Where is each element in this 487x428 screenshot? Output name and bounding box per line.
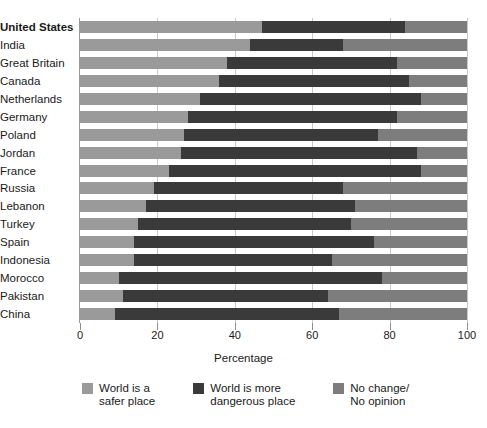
bar-segment-safer <box>80 272 119 284</box>
bar-row <box>80 236 467 248</box>
x-axis-title: Percentage <box>0 352 487 364</box>
category-label: Lebanon <box>0 200 76 212</box>
legend-item: World is a safer place <box>82 382 155 408</box>
legend-item: No change/ No opinion <box>333 382 409 408</box>
bar-row <box>80 200 467 212</box>
category-label: India <box>0 39 76 51</box>
bar-segment-nochange <box>382 272 467 284</box>
bar-segment-dangerous <box>219 75 409 87</box>
legend-label: World is a safer place <box>99 382 155 408</box>
bar-row <box>80 111 467 123</box>
bar-segment-nochange <box>421 93 467 105</box>
bar-segment-safer <box>80 182 154 194</box>
x-tick-label: 100 <box>458 329 476 341</box>
x-tick-label: 60 <box>306 329 318 341</box>
category-label: Russia <box>0 182 76 194</box>
bar-row <box>80 129 467 141</box>
bar-segment-nochange <box>328 290 467 302</box>
bar-segment-nochange <box>378 129 467 141</box>
bar-segment-nochange <box>397 111 467 123</box>
bar-segment-safer <box>80 21 262 33</box>
category-label: China <box>0 308 76 320</box>
category-label: Spain <box>0 236 76 248</box>
bar-segment-dangerous <box>146 200 355 212</box>
bar-segment-dangerous <box>227 57 397 69</box>
legend-swatch-nochange <box>333 383 344 394</box>
category-label: Netherlands <box>0 93 76 105</box>
bar-row <box>80 147 467 159</box>
bar-row <box>80 290 467 302</box>
bar-segment-dangerous <box>123 290 328 302</box>
bar-segment-nochange <box>351 218 467 230</box>
bar-segment-nochange <box>355 200 467 212</box>
bar-segment-nochange <box>332 254 467 266</box>
legend-label: No change/ No opinion <box>350 382 409 408</box>
bar-row <box>80 218 467 230</box>
category-label: Germany <box>0 111 76 123</box>
bar-segment-safer <box>80 236 134 248</box>
category-label: Morocco <box>0 272 76 284</box>
legend-label: World is more dangerous place <box>210 382 295 408</box>
category-label: Poland <box>0 129 76 141</box>
bar-row <box>80 272 467 284</box>
bar-segment-safer <box>80 93 200 105</box>
category-label: Turkey <box>0 218 76 230</box>
bar-row <box>80 165 467 177</box>
bar-segment-dangerous <box>184 129 378 141</box>
bar-segment-nochange <box>421 165 467 177</box>
bar-segment-nochange <box>417 147 467 159</box>
bar-segment-dangerous <box>181 147 417 159</box>
category-label: Jordan <box>0 147 76 159</box>
bar-segment-safer <box>80 57 227 69</box>
category-label: Canada <box>0 75 76 87</box>
legend-swatch-safer <box>82 383 93 394</box>
bar-segment-safer <box>80 75 219 87</box>
bar-segment-nochange <box>343 39 467 51</box>
bar-row <box>80 182 467 194</box>
bar-segment-safer <box>80 129 184 141</box>
bar-segment-dangerous <box>250 39 343 51</box>
category-label: Indonesia <box>0 254 76 266</box>
bar-segment-dangerous <box>115 308 339 320</box>
bar-segment-dangerous <box>119 272 382 284</box>
bar-segment-safer <box>80 111 188 123</box>
bar-segment-safer <box>80 254 134 266</box>
bar-row <box>80 308 467 320</box>
bar-row <box>80 39 467 51</box>
bar-row <box>80 21 467 33</box>
category-label-column: United StatesIndiaGreat BritainCanadaNet… <box>0 18 76 323</box>
bar-segment-nochange <box>397 57 467 69</box>
bar-segment-nochange <box>374 236 467 248</box>
bar-segment-safer <box>80 290 123 302</box>
bar-segment-safer <box>80 200 146 212</box>
bar-segment-nochange <box>405 21 467 33</box>
bar-segment-dangerous <box>169 165 421 177</box>
bar-segment-dangerous <box>134 236 374 248</box>
x-tick-label: 0 <box>77 329 83 341</box>
bar-row <box>80 75 467 87</box>
bar-segment-safer <box>80 147 181 159</box>
x-tick-label: 80 <box>383 329 395 341</box>
legend-item: World is more dangerous place <box>193 382 295 408</box>
plot-area <box>80 18 467 323</box>
bar-segment-dangerous <box>262 21 405 33</box>
bar-segment-dangerous <box>154 182 344 194</box>
bar-row <box>80 93 467 105</box>
chart-page: United StatesIndiaGreat BritainCanadaNet… <box>0 0 487 428</box>
category-label: United States <box>0 21 76 33</box>
category-label: France <box>0 165 76 177</box>
x-tick-label: 40 <box>229 329 241 341</box>
gridline-100 <box>467 18 468 323</box>
chart-legend: World is a safer placeWorld is more dang… <box>82 382 409 408</box>
bar-segment-dangerous <box>138 218 351 230</box>
bar-segment-dangerous <box>134 254 331 266</box>
category-label: Pakistan <box>0 290 76 302</box>
bar-segment-dangerous <box>188 111 397 123</box>
bar-segment-safer <box>80 39 250 51</box>
x-axis-baseline <box>80 323 467 324</box>
x-tick-label: 20 <box>151 329 163 341</box>
bar-row <box>80 57 467 69</box>
bar-segment-safer <box>80 165 169 177</box>
bar-segment-safer <box>80 308 115 320</box>
bar-segment-nochange <box>339 308 467 320</box>
